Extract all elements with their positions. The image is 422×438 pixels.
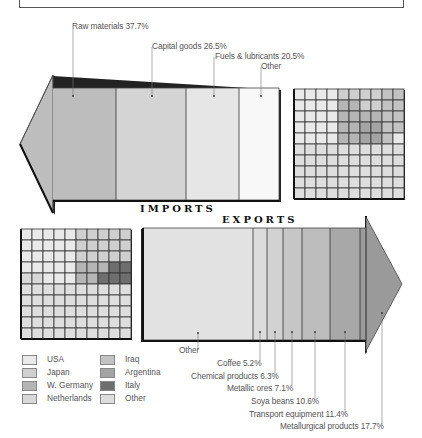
exports-segment bbox=[143, 228, 253, 340]
export-label-metallurgical: Metallurgical products 17.7% bbox=[280, 421, 384, 431]
exports-grid-cell bbox=[65, 295, 76, 306]
imports-grid-cell bbox=[393, 155, 404, 166]
exports-grid-cell bbox=[120, 229, 131, 240]
legend-label: Argentina bbox=[125, 367, 161, 377]
exports-grid-cell bbox=[109, 273, 120, 284]
imports-grid-cell bbox=[327, 188, 338, 199]
imports-grid-cell bbox=[371, 100, 382, 111]
exports-grid-cell bbox=[54, 295, 65, 306]
imports-grid-cell bbox=[349, 100, 360, 111]
exports-grid-cell bbox=[21, 284, 32, 295]
imports-grid-cell bbox=[371, 188, 382, 199]
exports-grid-cell bbox=[32, 317, 43, 328]
imports-segment bbox=[53, 88, 116, 200]
exports-grid-cell bbox=[98, 284, 109, 295]
exports-grid-cell bbox=[21, 240, 32, 251]
imports-grid-cell bbox=[393, 111, 404, 122]
exports-grid-cell bbox=[109, 240, 120, 251]
imports-grid-cell bbox=[382, 144, 393, 155]
imports-grid-cell bbox=[338, 100, 349, 111]
legend-swatch bbox=[22, 355, 37, 365]
exports-grid-cell bbox=[65, 240, 76, 251]
imports-grid-cell bbox=[360, 144, 371, 155]
exports-grid-cell bbox=[76, 295, 87, 306]
exports-grid-cell bbox=[76, 284, 87, 295]
exports-grid-cell bbox=[54, 317, 65, 328]
exports-grid-cell bbox=[43, 229, 54, 240]
imports-grid-cell bbox=[294, 155, 305, 166]
exports-grid-cell bbox=[98, 295, 109, 306]
export-label-chemical: Chemical products 6.3% bbox=[191, 371, 279, 381]
imports-grid-cell bbox=[305, 89, 316, 100]
exports-grid-cell bbox=[32, 229, 43, 240]
imports-grid-cell bbox=[382, 111, 393, 122]
imports-grid-cell bbox=[316, 166, 327, 177]
exports-grid-cell bbox=[21, 328, 32, 339]
imports-grid-cell bbox=[338, 166, 349, 177]
imports-grid-cell bbox=[327, 89, 338, 100]
imports-grid-cell bbox=[360, 100, 371, 111]
imports-grid-cell bbox=[393, 122, 404, 133]
legend-swatch bbox=[100, 394, 115, 404]
legend-swatch bbox=[22, 381, 37, 391]
imports-grid-cell bbox=[360, 188, 371, 199]
exports-grid-cell bbox=[54, 328, 65, 339]
imports-segment bbox=[186, 88, 239, 200]
exports-grid-cell bbox=[43, 284, 54, 295]
exports-segment bbox=[360, 228, 366, 340]
exports-grid-cell bbox=[54, 251, 65, 262]
exports-grid-cell bbox=[120, 273, 131, 284]
imports-grid-cell bbox=[371, 89, 382, 100]
imports-grid-cell bbox=[305, 155, 316, 166]
import-label-fuels: Fuels & lubricants 20.5% bbox=[215, 51, 304, 61]
exports-grid-cell bbox=[54, 273, 65, 284]
exports-arrow-head bbox=[366, 217, 402, 351]
imports-grid-cell bbox=[316, 89, 327, 100]
imports-grid-cell bbox=[305, 144, 316, 155]
imports-grid-cell bbox=[294, 133, 305, 144]
import-label-capital-goods: Capital goods 26.5% bbox=[152, 41, 227, 51]
imports-grid-cell bbox=[382, 133, 393, 144]
imports-grid-cell bbox=[382, 188, 393, 199]
exports-grid-cell bbox=[109, 317, 120, 328]
exports-grid-cell bbox=[98, 306, 109, 317]
exports-grid-cell bbox=[21, 251, 32, 262]
exports-grid-cell bbox=[54, 240, 65, 251]
exports-grid-cell bbox=[65, 306, 76, 317]
exports-grid-cell bbox=[109, 306, 120, 317]
exports-grid-cell bbox=[87, 262, 98, 273]
exports-grid-cell bbox=[32, 295, 43, 306]
exports-grid-cell bbox=[120, 251, 131, 262]
exports-grid-cell bbox=[98, 317, 109, 328]
legend-swatch bbox=[22, 394, 37, 404]
export-label-other: Other bbox=[179, 345, 199, 355]
imports-grid-cell bbox=[338, 133, 349, 144]
imports-grid-cell bbox=[371, 122, 382, 133]
imports-grid-cell bbox=[382, 166, 393, 177]
imports-grid-cell bbox=[349, 155, 360, 166]
imports-grid-cell bbox=[305, 100, 316, 111]
exports-grid-cell bbox=[21, 273, 32, 284]
imports-grid-cell bbox=[316, 133, 327, 144]
imports-grid-cell bbox=[382, 89, 393, 100]
imports-grid-cell bbox=[382, 100, 393, 111]
imports-grid-cell bbox=[305, 166, 316, 177]
legend-swatch bbox=[22, 368, 37, 378]
exports-grid-cell bbox=[65, 328, 76, 339]
exports-grid-cell bbox=[87, 229, 98, 240]
exports-grid-cell bbox=[32, 262, 43, 273]
legend-swatch bbox=[100, 355, 115, 365]
exports-segment bbox=[267, 228, 283, 340]
exports-grid-cell bbox=[43, 251, 54, 262]
exports-grid-cell bbox=[21, 229, 32, 240]
legend-label: Japan bbox=[47, 367, 70, 377]
imports-grid-cell bbox=[382, 177, 393, 188]
exports-grid-cell bbox=[87, 284, 98, 295]
imports-grid-cell bbox=[294, 89, 305, 100]
imports-grid-cell bbox=[393, 166, 404, 177]
imports-arrow-head bbox=[20, 75, 53, 213]
exports-grid-cell bbox=[87, 317, 98, 328]
exports-grid-cell bbox=[54, 284, 65, 295]
imports-grid-cell bbox=[327, 111, 338, 122]
imports-grid-cell bbox=[371, 144, 382, 155]
